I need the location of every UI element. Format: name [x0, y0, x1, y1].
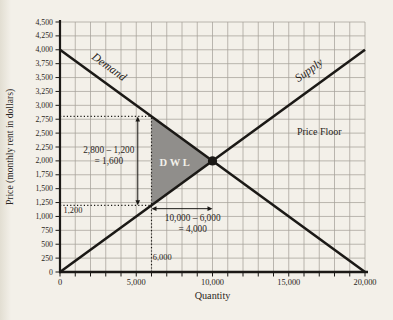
demand-curve-label: Demand — [89, 50, 129, 84]
y-tick-label: 3,000 — [35, 101, 53, 110]
y-tick-label: 2,750 — [35, 115, 53, 124]
arrowhead — [208, 206, 213, 211]
annotation-text: = 1,600 — [95, 156, 124, 166]
y-tick-label: 750 — [41, 226, 53, 235]
annotation-text: 2,800 – 1,200 — [83, 145, 134, 155]
price-floor-label: Price Floor — [297, 126, 342, 137]
y-tick-label: 4,250 — [35, 31, 53, 40]
arrowhead — [152, 206, 157, 211]
x-tick-label: 0 — [58, 278, 62, 287]
annotation-text: = 4,000 — [178, 224, 207, 234]
y-tick-label: 4,500 — [35, 18, 53, 27]
y-tick-label: 1,500 — [35, 184, 53, 193]
annotation-text: 1,200 — [64, 206, 83, 215]
y-tick-label: 2,500 — [35, 129, 53, 138]
y-tick-label: 2,250 — [35, 143, 53, 152]
annotation-text: 6,000 — [153, 253, 172, 262]
dwl-label: DWL — [160, 157, 193, 168]
y-tick-label: 3,500 — [35, 73, 53, 82]
y-tick-label: 4,000 — [35, 45, 53, 54]
y-tick-label: 2,000 — [35, 156, 53, 165]
x-tick-label: 5,000 — [127, 278, 146, 287]
y-tick-label: 3,250 — [35, 87, 53, 96]
y-tick-label: 1,000 — [35, 212, 53, 221]
equilibrium-point — [208, 156, 217, 165]
y-tick-label: 250 — [41, 254, 53, 263]
supply-demand-chart: 05,00010,00015,00020,00002505007501,0001… — [0, 0, 393, 320]
annotation-text: 10,000 – 6,000 — [165, 213, 221, 223]
x-axis-title: Quantity — [195, 290, 232, 301]
y-axis-title: Price (monthly rent in dollars) — [4, 89, 16, 205]
y-tick-label: 1,750 — [35, 170, 53, 179]
y-tick-label: 500 — [41, 240, 53, 249]
y-tick-label: 0 — [49, 268, 53, 277]
figure-container: 05,00010,00015,00020,00002505007501,0001… — [0, 0, 393, 320]
x-tick-label: 20,000 — [353, 278, 376, 287]
x-tick-label: 10,000 — [201, 278, 224, 287]
x-tick-label: 15,000 — [277, 278, 300, 287]
y-tick-label: 3,750 — [35, 59, 53, 68]
y-tick-label: 1,250 — [35, 198, 53, 207]
